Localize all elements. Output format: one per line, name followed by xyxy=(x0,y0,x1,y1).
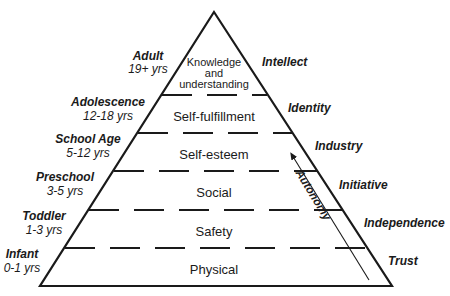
task-identity: Identity xyxy=(288,101,332,115)
stage-adolescence-name: Adolescence xyxy=(70,95,145,109)
task-industry: Industry xyxy=(315,139,364,153)
level-physical: Physical xyxy=(190,262,239,277)
task-intellect: Intellect xyxy=(262,55,308,69)
stage-school-age-name: School Age xyxy=(55,132,121,146)
stage-adult-age: 19+ yrs xyxy=(128,62,168,76)
stage-school-age-age: 5-12 yrs xyxy=(66,146,109,160)
stage-preschool-name: Preschool xyxy=(36,170,95,184)
task-trust: Trust xyxy=(388,254,419,268)
level-knowledge-line3: understanding xyxy=(179,78,249,90)
stage-toddler-name: Toddler xyxy=(22,209,67,223)
psychosocial-tasks: Intellect Identity Industry Initiative I… xyxy=(262,55,445,268)
level-safety: Safety xyxy=(196,224,233,239)
level-self-esteem: Self-esteem xyxy=(179,147,248,162)
autonomy-label: Autonomy xyxy=(293,167,334,223)
pyramid-diagram: Knowledge and understanding Self-fulfill… xyxy=(0,0,450,296)
stage-adult-name: Adult xyxy=(132,49,165,63)
stage-adolescence-age: 12-18 yrs xyxy=(83,109,133,123)
pyramid-levels: Knowledge and understanding Self-fulfill… xyxy=(173,56,255,277)
stage-infant-age: 0-1 yrs xyxy=(4,261,41,275)
task-initiative: Initiative xyxy=(339,178,388,192)
task-independence: Independence xyxy=(364,216,445,230)
level-social: Social xyxy=(196,185,232,200)
stage-toddler-age: 1-3 yrs xyxy=(26,223,63,237)
level-self-fulfillment: Self-fulfillment xyxy=(173,109,255,124)
developmental-stages: Adult 19+ yrs Adolescence 12-18 yrs Scho… xyxy=(4,49,168,275)
stage-infant-name: Infant xyxy=(6,247,40,261)
stage-preschool-age: 3-5 yrs xyxy=(47,184,84,198)
